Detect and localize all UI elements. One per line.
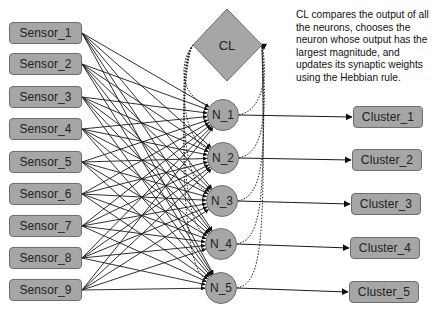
sensor-node-4: Sensor_4 (9, 118, 82, 140)
cluster-node-4: Cluster_4 (350, 237, 420, 259)
sensor-node-6: Sensor_6 (9, 183, 82, 205)
neuron-to-cluster-edges (237, 115, 352, 292)
cluster-node-2: Cluster_2 (352, 149, 422, 171)
neuron-node-1: N_1 (207, 99, 239, 131)
neuron-node-5: N_5 (205, 272, 237, 304)
neuron-node-2: N_2 (207, 142, 239, 174)
cl-comparator-label: CL (215, 38, 239, 53)
sensor-node-3: Sensor_3 (9, 86, 82, 108)
sensor-node-7: Sensor_7 (9, 215, 82, 237)
cluster-node-5: Cluster_5 (349, 281, 419, 303)
sensor-node-8: Sensor_8 (9, 247, 82, 269)
neuron-node-3: N_3 (206, 185, 238, 217)
cl-description-note: CL compares the output of all the neuron… (296, 9, 436, 85)
sensor-to-neuron-edges (82, 33, 213, 290)
cluster-node-1: Cluster_1 (353, 106, 423, 128)
sensor-node-5: Sensor_5 (9, 151, 82, 173)
sensor-node-1: Sensor_1 (9, 22, 82, 44)
sensor-node-9: Sensor_9 (9, 279, 82, 301)
cluster-node-3: Cluster_3 (351, 193, 421, 215)
sensor-node-2: Sensor_2 (9, 53, 82, 75)
neuron-node-4: N_4 (205, 228, 237, 260)
